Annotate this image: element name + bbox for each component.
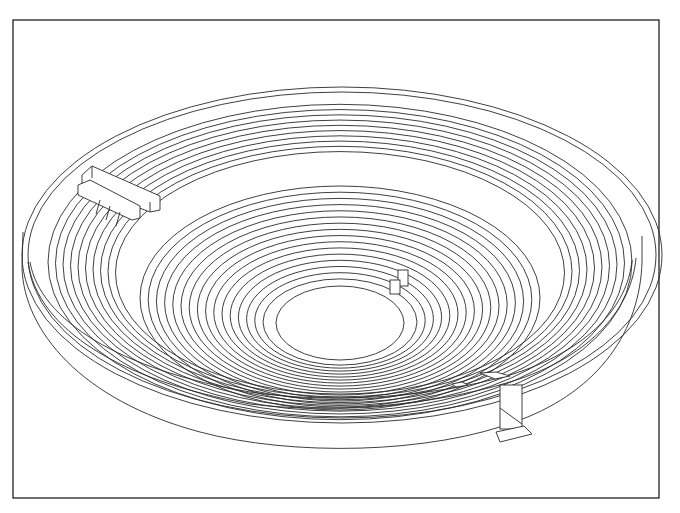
- seating-row: [189, 223, 491, 392]
- seating-row: [238, 260, 441, 374]
- seating-row: [101, 141, 580, 400]
- lower-seating-rows: [140, 186, 540, 410]
- seating-row: [206, 236, 475, 387]
- seating-row: [93, 136, 587, 403]
- outer-wall-base: [22, 262, 642, 448]
- seating-row: [71, 120, 610, 411]
- seating-row: [108, 146, 572, 397]
- seating-row: [148, 192, 532, 407]
- upper-seating-rows: [48, 104, 632, 419]
- seating-row: [140, 186, 540, 410]
- seating-row: [165, 205, 516, 401]
- seating-row: [86, 131, 595, 406]
- pedestal-icon: [390, 270, 408, 294]
- theater-drawing: [0, 0, 680, 513]
- stair-block-icon: [78, 166, 160, 226]
- seating-row: [214, 242, 466, 383]
- orchestra-floor: [276, 286, 404, 360]
- theater-svg: [0, 0, 680, 513]
- seating-row: [63, 115, 617, 414]
